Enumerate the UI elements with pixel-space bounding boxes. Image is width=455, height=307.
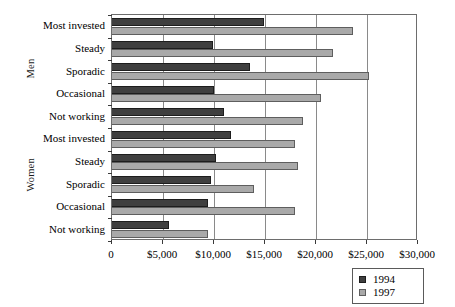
category-label: Most invested — [0, 133, 105, 144]
y-axis-tick — [108, 38, 112, 39]
bar-1994 — [112, 86, 214, 94]
dark-square-swatch-icon — [359, 276, 366, 283]
legend-label-1994: 1994 — [373, 274, 395, 285]
bar-1997 — [112, 207, 295, 215]
legend-entry-1997: 1997 — [359, 286, 414, 299]
legend-entry-1994: 1994 — [359, 273, 414, 286]
category-label: Sporadic — [0, 66, 105, 77]
category-label: Sporadic — [0, 179, 105, 190]
x-axis-tick — [264, 240, 265, 244]
plot-area — [111, 14, 417, 240]
gridline — [367, 15, 368, 239]
y-axis-tick — [108, 105, 112, 106]
x-axis-tick — [315, 240, 316, 244]
category-label: Not working — [0, 111, 105, 122]
x-axis-tick — [417, 240, 418, 244]
x-axis-tick-label: $25,000 — [348, 249, 384, 260]
bar-1997 — [112, 117, 303, 125]
bar-1997 — [112, 27, 353, 35]
y-axis-tick — [108, 60, 112, 61]
bar-1997 — [112, 94, 321, 102]
bar-1994 — [112, 154, 216, 162]
bar-1994 — [112, 18, 264, 26]
x-axis-tick — [213, 240, 214, 244]
x-axis-tick-label: 0 — [108, 249, 114, 260]
y-axis-tick — [108, 151, 112, 152]
bar-1994 — [112, 41, 213, 49]
category-label: Steady — [0, 156, 105, 167]
grouped-bar-chart: Men Women Most investedSteadySporadicOcc… — [0, 0, 455, 307]
y-axis-tick — [108, 196, 112, 197]
y-axis-tick — [108, 218, 112, 219]
bar-1997 — [112, 185, 254, 193]
x-axis-tick — [162, 240, 163, 244]
x-axis-tick-label: $30,000 — [399, 249, 435, 260]
category-label: Occasional — [0, 201, 105, 212]
bar-1994 — [112, 176, 211, 184]
y-axis-tick — [108, 15, 112, 16]
category-label: Most invested — [0, 20, 105, 31]
y-axis-tick — [108, 173, 112, 174]
y-axis-tick — [108, 128, 112, 129]
y-axis-tick — [108, 83, 112, 84]
bar-1994 — [112, 63, 250, 71]
category-label: Occasional — [0, 88, 105, 99]
bar-1997 — [112, 72, 369, 80]
chart-legend: 1994 1997 — [352, 268, 424, 304]
x-axis-tick-label: $15,000 — [246, 249, 282, 260]
x-axis-tick-label: $5,000 — [147, 249, 177, 260]
bar-1997 — [112, 49, 333, 57]
light-square-swatch-icon — [359, 289, 366, 296]
bar-1994 — [112, 108, 224, 116]
bar-1994 — [112, 199, 208, 207]
bar-1997 — [112, 140, 295, 148]
category-label: Steady — [0, 43, 105, 54]
bar-1997 — [112, 162, 298, 170]
x-axis-tick-label: $10,000 — [195, 249, 231, 260]
legend-label-1997: 1997 — [373, 287, 395, 298]
x-axis-tick-label: $20,000 — [297, 249, 333, 260]
bar-1994 — [112, 131, 231, 139]
category-label: Not working — [0, 224, 105, 235]
x-axis-tick — [111, 240, 112, 244]
bar-1997 — [112, 230, 208, 238]
x-axis-tick — [366, 240, 367, 244]
bar-1994 — [112, 221, 169, 229]
